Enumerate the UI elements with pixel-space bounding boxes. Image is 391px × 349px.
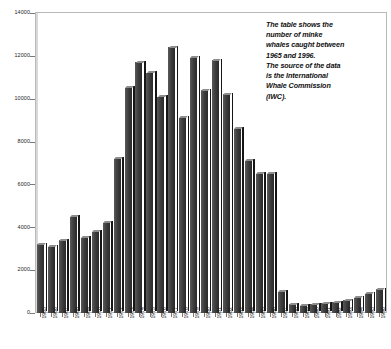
bar (234, 129, 243, 313)
bar-top-face (114, 157, 123, 159)
x-axis-tick: 1968 (70, 313, 79, 349)
annotation-line: The table shows the (266, 20, 384, 30)
bar-side-face (264, 172, 266, 311)
x-axis-tick-label: 1975 (151, 307, 156, 331)
x-axis-tick-label: 1965 (42, 307, 47, 331)
y-axis-tick: 10000 (0, 93, 35, 105)
bar-side-face (242, 127, 244, 311)
x-axis-tick-label: 1971 (108, 307, 113, 331)
bar-face (92, 232, 99, 313)
bar-face (135, 62, 142, 313)
bar-side-face (275, 172, 277, 311)
x-axis-tick-label: 1967 (64, 307, 69, 331)
bar-face (48, 247, 55, 313)
bar-face (157, 97, 164, 313)
bar-side-face (122, 157, 124, 311)
x-axis-tick-label: 1987 (283, 307, 288, 331)
bar (114, 159, 123, 313)
x-axis-tick-label: 1980 (206, 307, 211, 331)
bar-face (223, 94, 230, 313)
bar-side-face (111, 221, 113, 311)
bar-top-face (333, 301, 342, 303)
x-axis-tick: 1986 (267, 313, 276, 349)
x-axis-tick: 1993 (343, 313, 352, 349)
x-axis-tick: 1965 (37, 313, 46, 349)
x-axis-tick-label: 1973 (130, 307, 135, 331)
x-axis-tick: 1987 (278, 313, 287, 349)
bar-face (190, 58, 197, 313)
bar-side-face (232, 93, 234, 312)
x-axis-tick-label: 1989 (305, 307, 310, 331)
annotation-line: Whale Commission (266, 81, 384, 91)
bar-face (245, 161, 252, 313)
x-axis-tick: 1971 (103, 313, 112, 349)
bar-face (37, 244, 44, 313)
bar-top-face (59, 239, 68, 241)
bar-face (212, 60, 219, 313)
bar-top-face (136, 61, 145, 63)
bar-side-face (199, 56, 201, 311)
bar-top-face (158, 95, 167, 97)
x-axis-tick: 1972 (114, 313, 123, 349)
bar-side-face (89, 236, 91, 311)
x-axis-tick: 1967 (59, 313, 68, 349)
y-axis-tick-mark (30, 13, 35, 14)
x-axis-tick-label: 1970 (97, 307, 102, 331)
x-axis-tick-label: 1996 (381, 307, 386, 331)
y-axis-tick: 0 (0, 307, 35, 319)
bar (190, 58, 199, 313)
x-axis-tick-label: 1990 (315, 307, 320, 331)
x-axis-tick: 1985 (256, 313, 265, 349)
bar (125, 88, 134, 313)
bar (92, 232, 101, 313)
bar (267, 174, 276, 313)
x-axis-tick-label: 1985 (261, 307, 266, 331)
bar-top-face (213, 59, 222, 61)
bar-side-face (78, 215, 80, 311)
y-axis-tick-mark (30, 142, 35, 143)
x-axis-tick: 1994 (354, 313, 363, 349)
annotation-line: The source of the data (266, 61, 384, 71)
x-axis-tick-label: 1972 (119, 307, 124, 331)
y-axis-tick-mark (30, 99, 35, 100)
bar-face (267, 174, 274, 313)
x-axis-tick: 1975 (146, 313, 155, 349)
bar-side-face (57, 245, 59, 311)
bar-top-face (92, 230, 101, 232)
bar-face (168, 47, 175, 313)
y-axis-tick-mark (30, 313, 35, 314)
bar-top-face (322, 302, 331, 304)
bar-side-face (155, 71, 157, 311)
x-axis-tick-label: 1969 (86, 307, 91, 331)
bar-face (103, 223, 110, 313)
x-axis-tick: 1966 (48, 313, 57, 349)
bar (81, 238, 90, 313)
x-axis-tick: 1988 (289, 313, 298, 349)
x-axis-tick: 1981 (212, 313, 221, 349)
y-axis-tick: 2000 (0, 264, 35, 276)
bar-face (146, 73, 153, 313)
x-axis-tick-label: 1974 (140, 307, 145, 331)
annotation-line: is the International (266, 71, 384, 81)
bar-side-face (253, 159, 255, 311)
bar-top-face (344, 299, 353, 301)
x-axis-tick: 1969 (81, 313, 90, 349)
bar-side-face (221, 59, 223, 312)
x-axis-tick-label: 1991 (326, 307, 331, 331)
x-axis-tick: 1973 (125, 313, 134, 349)
bar-face (179, 118, 186, 313)
x-axis-tick-label: 1986 (272, 307, 277, 331)
bar (179, 118, 188, 313)
bar (103, 223, 112, 313)
bar-face (114, 159, 121, 313)
bar-face (234, 129, 241, 313)
x-axis-tick: 1995 (365, 313, 374, 349)
minke-whale-catch-bar-chart: 02000400060008000100001200014000 1965196… (0, 0, 391, 349)
bar-face (201, 90, 208, 313)
y-axis-tick: 6000 (0, 178, 35, 190)
x-axis-tick-label: 1977 (173, 307, 178, 331)
x-axis-tick: 1970 (92, 313, 101, 349)
bar-side-face (46, 243, 48, 312)
x-axis-tick: 1982 (223, 313, 232, 349)
bar-side-face (166, 95, 168, 311)
